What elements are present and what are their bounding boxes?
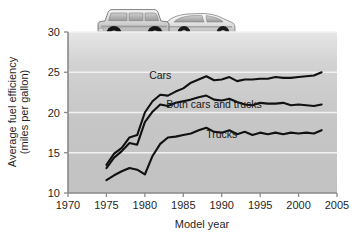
series-label-trucks: Trucks: [206, 128, 237, 140]
x-tick-label-1995: 1995: [248, 199, 272, 211]
series-label-cars: Cars: [149, 69, 171, 81]
y-tick-label-25: 25: [48, 66, 60, 78]
x-tick-label-1970: 1970: [56, 199, 80, 211]
y-tick-label-10: 10: [48, 187, 60, 199]
x-axis-tick-labels: 19701975198019851990199520002005: [56, 199, 349, 211]
y-tick-label-30: 30: [48, 26, 60, 38]
chart-canvas: 1015202530 19701975198019851990199520002…: [0, 0, 356, 240]
y-axis-title: Average fuel efficiency (miles per gallo…: [6, 56, 30, 167]
x-tick-label-1985: 1985: [171, 199, 195, 211]
x-tick-label-1980: 1980: [133, 199, 157, 211]
x-tick-label-2000: 2000: [286, 199, 310, 211]
x-tick-label-1990: 1990: [209, 199, 233, 211]
y-tick-label-15: 15: [48, 147, 60, 159]
y-tick-label-20: 20: [48, 107, 60, 119]
series-label-both-cars-and-trucks: Both cars and trucks: [166, 98, 262, 110]
y-axis-title-line2: (miles per gallon): [18, 70, 30, 154]
x-axis-title: Model year: [175, 218, 230, 230]
x-tick-label-2005: 2005: [325, 199, 349, 211]
y-axis-title-line1: Average fuel efficiency: [6, 56, 18, 167]
x-tick-label-1975: 1975: [94, 199, 118, 211]
y-axis-tick-labels: 1015202530: [48, 26, 60, 199]
fuel-efficiency-figure: 1015202530 19701975198019851990199520002…: [0, 0, 356, 240]
